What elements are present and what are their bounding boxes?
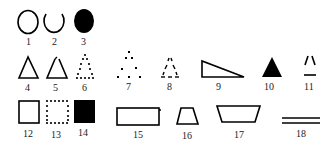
label-5: 5: [53, 82, 58, 93]
shape-12-square-outline: 12: [19, 101, 39, 139]
shape-1-circle-outline: 1: [18, 11, 38, 48]
shape-18-double-line: 18: [282, 118, 320, 139]
shape-11-triangle-corners-only: 11: [304, 56, 316, 92]
shapes-figure: 1 2 3 4 5 6 7 8 9: [0, 0, 335, 149]
label-8: 8: [167, 81, 172, 92]
label-9: 9: [216, 81, 221, 92]
shape-2-circle-open-top: 2: [44, 14, 64, 47]
shape-7-triangle-sparse-dots: 7: [117, 51, 141, 92]
label-13: 13: [51, 129, 61, 140]
label-15: 15: [133, 129, 143, 140]
shape-16-trapezoid-outline: 16: [177, 108, 198, 141]
shape-6-triangle-dotted: 6: [76, 54, 94, 93]
label-6: 6: [82, 82, 87, 93]
label-1: 1: [26, 36, 31, 47]
label-16: 16: [182, 130, 192, 141]
shape-14-square-filled: 14: [74, 100, 95, 138]
shape-17-inverted-trapezoid-outline: 17: [217, 106, 260, 140]
shape-4-triangle-outline: 4: [19, 57, 38, 93]
shape-15-rectangle-outline: 15: [117, 108, 161, 140]
label-7: 7: [126, 81, 131, 92]
shape-13-square-dotted: 13: [46, 100, 69, 140]
label-18: 18: [296, 128, 306, 139]
shape-9-right-triangle-outline: 9: [202, 61, 244, 92]
shape-8-triangle-dashes: 8: [161, 58, 179, 92]
label-11: 11: [304, 81, 314, 92]
shape-3-circle-filled: 3: [74, 9, 94, 47]
label-4: 4: [25, 82, 30, 93]
label-10: 10: [264, 81, 274, 92]
label-3: 3: [81, 36, 86, 47]
label-17: 17: [234, 129, 244, 140]
shape-5-triangle-outline-open-apex: 5: [47, 57, 67, 93]
shape-10-triangle-filled: 10: [262, 57, 282, 92]
label-12: 12: [23, 128, 33, 139]
label-14: 14: [78, 127, 88, 138]
label-2: 2: [52, 36, 57, 47]
